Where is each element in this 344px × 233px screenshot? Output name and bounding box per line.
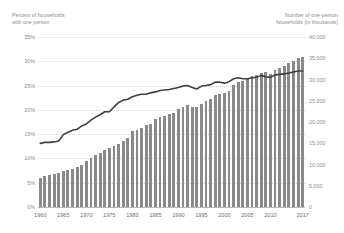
x-axis-tick: 1965	[57, 212, 69, 219]
x-axis-tick: 1990	[172, 212, 184, 219]
x-axis-tick: 1995	[195, 212, 207, 219]
x-axis-tick: 2000	[218, 212, 230, 219]
right-axis-tick: 15,000	[309, 140, 343, 146]
line-series	[38, 37, 305, 207]
plot-area	[38, 37, 305, 207]
right-axis-tick: 40,000	[309, 34, 343, 40]
right-axis-tick: 30,000	[309, 77, 343, 83]
left-axis-tick: 35%	[9, 34, 35, 40]
left-axis-tick: 20%	[9, 107, 35, 113]
one-person-households-chart: Percent of households with one person Nu…	[0, 0, 344, 233]
x-axis-tick: 1960	[34, 212, 46, 219]
x-axis-tick: 2017	[296, 212, 308, 219]
left-axis-tick: 10%	[9, 155, 35, 161]
left-axis-tick: 5%	[9, 180, 35, 186]
left-axis-tick: 25%	[9, 83, 35, 89]
left-axis-tick: 30%	[9, 58, 35, 64]
x-axis-tick: 2010	[264, 212, 276, 219]
x-axis-tick: 2005	[241, 212, 253, 219]
left-axis-tick: 0%	[9, 204, 35, 210]
x-axis-tick: 1970	[80, 212, 92, 219]
left-axis-title: Percent of households with one person	[12, 12, 65, 26]
x-axis	[38, 207, 305, 208]
right-axis-tick: 25,000	[309, 98, 343, 104]
right-axis-tick: 20,000	[309, 119, 343, 125]
right-axis-title: Number of one-person households (in thou…	[276, 12, 338, 26]
left-axis-tick: 15%	[9, 131, 35, 137]
right-axis-tick: 10,000	[309, 162, 343, 168]
x-axis-tick: 1980	[126, 212, 138, 219]
x-axis-tick: 1985	[149, 212, 161, 219]
right-axis-tick: 35,000	[309, 55, 343, 61]
right-axis-tick: 5,000	[309, 183, 343, 189]
percent-line	[40, 71, 302, 143]
x-axis-tick: 1975	[103, 212, 115, 219]
right-axis-tick: 0	[309, 204, 343, 210]
